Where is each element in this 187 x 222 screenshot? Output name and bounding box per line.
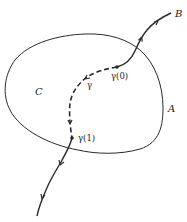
diagram-canvas: B C A γ γ(0) γ(1) xyxy=(0,0,187,222)
label-a: A xyxy=(167,103,175,114)
label-gamma: γ xyxy=(87,80,92,90)
label-gamma-end: γ(1) xyxy=(78,133,95,143)
label-gamma-start: γ(0) xyxy=(111,71,128,81)
path-from-b xyxy=(117,13,171,67)
label-b: B xyxy=(174,8,182,19)
path-gamma xyxy=(70,67,117,138)
path-exit xyxy=(37,138,72,216)
arrow-icon xyxy=(85,75,90,79)
label-c: C xyxy=(35,86,43,97)
